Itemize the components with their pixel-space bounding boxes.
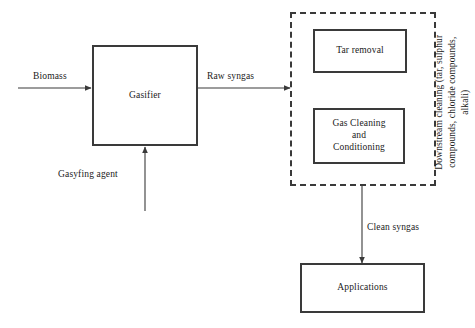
node-tar-removal[interactable]: Tar removal xyxy=(313,29,407,73)
node-gasifier[interactable]: Gasifier xyxy=(92,45,198,146)
flow-label-raw-syngas: Raw syngas xyxy=(207,71,254,81)
node-gasifier-label: Gasifier xyxy=(129,90,161,102)
flow-label-biomass: Biomass xyxy=(33,71,67,81)
group-downstream-cleaning-label: Downstream cleaning (tar, sulphur compou… xyxy=(433,16,471,188)
node-applications-label: Applications xyxy=(337,282,387,294)
flow-label-clean-syngas: Clean syngas xyxy=(367,222,419,232)
diagram-canvas: Gasifier Tar removal Gas Cleaning and Co… xyxy=(0,0,475,328)
node-tar-removal-label: Tar removal xyxy=(336,45,384,57)
flow-label-gasifying-agent: Gasyfing agent xyxy=(58,169,118,179)
node-applications[interactable]: Applications xyxy=(300,263,425,313)
node-gas-cleaning[interactable]: Gas Cleaning and Conditioning xyxy=(313,108,405,164)
node-gas-cleaning-label: Gas Cleaning and Conditioning xyxy=(332,118,385,154)
